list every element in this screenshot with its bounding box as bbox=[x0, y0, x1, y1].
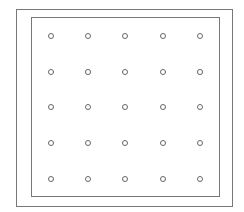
grid-dot-icon bbox=[160, 33, 166, 39]
grid-dot-icon bbox=[122, 176, 128, 182]
grid-dot-icon bbox=[122, 69, 128, 75]
grid-dot-icon bbox=[85, 176, 91, 182]
grid-dot-icon bbox=[85, 104, 91, 110]
grid-dot-icon bbox=[48, 140, 54, 146]
grid-dot-icon bbox=[197, 33, 203, 39]
grid-dot-icon bbox=[85, 140, 91, 146]
grid-dot-icon bbox=[197, 176, 203, 182]
grid-dot-icon bbox=[160, 104, 166, 110]
grid-dot-icon bbox=[85, 33, 91, 39]
grid-dot-icon bbox=[122, 33, 128, 39]
grid-dot-icon bbox=[48, 104, 54, 110]
grid-dot-icon bbox=[48, 69, 54, 75]
grid-dot-icon bbox=[48, 33, 54, 39]
grid-dot-icon bbox=[85, 69, 91, 75]
grid-dot-icon bbox=[197, 69, 203, 75]
grid-dot-icon bbox=[122, 104, 128, 110]
grid-dot-icon bbox=[122, 140, 128, 146]
grid-dot-icon bbox=[197, 104, 203, 110]
grid-dot-icon bbox=[160, 140, 166, 146]
grid-dot-icon bbox=[160, 69, 166, 75]
grid-dot-icon bbox=[197, 140, 203, 146]
grid-dot-icon bbox=[160, 176, 166, 182]
grid-dot-icon bbox=[48, 176, 54, 182]
